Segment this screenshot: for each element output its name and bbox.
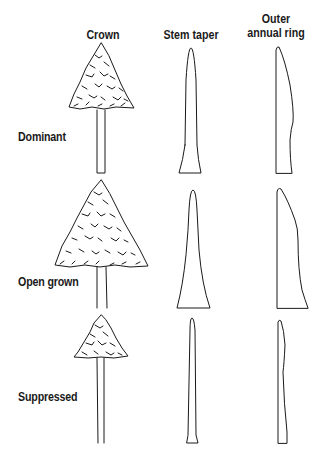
suppressed-stem-taper: [187, 318, 198, 443]
dominant-crown-icon: [69, 43, 134, 109]
dominant-trunk: [97, 110, 105, 173]
open-grown-trunk: [97, 267, 107, 308]
suppressed-crown-icon: [74, 315, 128, 358]
open-grown-stem-taper: [177, 190, 210, 308]
open-grown-outer-ring: [277, 188, 308, 308]
tree-form-diagram: Crown Stem taper Outer annual ring Domin…: [0, 0, 327, 458]
suppressed-outer-ring: [278, 320, 287, 443]
open-grown-crown-icon: [55, 180, 148, 267]
dominant-stem-taper: [179, 48, 201, 173]
suppressed-trunk: [97, 358, 104, 443]
dominant-outer-ring: [276, 47, 293, 173]
